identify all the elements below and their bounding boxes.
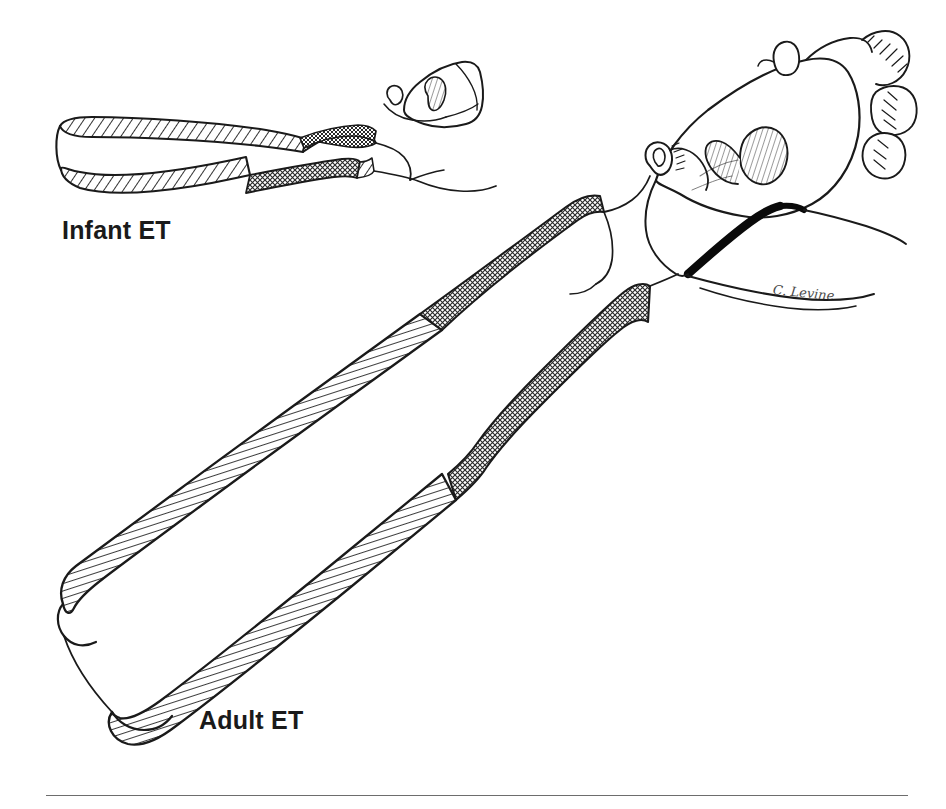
anatomical-line-drawing bbox=[0, 0, 946, 809]
adult-lumen-isthmus bbox=[64, 636, 112, 712]
adult-tube-inferior-bridge bbox=[650, 274, 678, 286]
adult-upper-wall-bony bbox=[61, 314, 442, 613]
levator-muscle-band bbox=[688, 206, 780, 274]
adult-upper-wall-tympanic-end bbox=[58, 604, 96, 645]
adenoid-mass-superior bbox=[862, 31, 909, 85]
infant-eustachian-tube bbox=[56, 117, 496, 193]
adenoid-mass-inferior bbox=[863, 133, 906, 178]
adult-lower-wall-cartilage bbox=[448, 284, 650, 500]
infant-lower-wall-bony bbox=[61, 157, 250, 193]
soft-palate-contour bbox=[804, 210, 906, 244]
nasopharynx-region bbox=[645, 31, 916, 310]
adult-tube-to-ostium-bridge bbox=[604, 176, 650, 212]
infant-eustachian-opening bbox=[387, 86, 403, 105]
figure-canvas: Infant ET Adult ET C. Levine bbox=[0, 0, 946, 809]
infant-upper-wall-bony bbox=[60, 117, 306, 152]
torus-tubarius bbox=[740, 127, 788, 184]
adenoid-mass-superior-hatch bbox=[868, 36, 907, 72]
bone-process-small bbox=[758, 60, 774, 66]
adult-lumen-lower-contour bbox=[570, 284, 596, 294]
skull-superior-contour bbox=[806, 38, 872, 60]
adult-eustachian-tube bbox=[58, 195, 650, 744]
infant-et-label: Infant ET bbox=[62, 216, 171, 245]
adult-lumen-upper-contour bbox=[596, 212, 613, 284]
bottom-divider-rule bbox=[46, 795, 908, 796]
adult-et-label: Adult ET bbox=[199, 706, 303, 735]
infant-soft-palate-line bbox=[410, 170, 444, 180]
infant-nasopharynx-floor bbox=[374, 171, 496, 191]
adult-upper-wall-cartilage bbox=[420, 195, 604, 330]
bone-fragment-pterygoid bbox=[773, 42, 799, 76]
infant-lower-wall-cartilage bbox=[246, 159, 360, 193]
infant-nasopharynx-sketch bbox=[384, 62, 483, 127]
infant-tympanic-end bbox=[56, 126, 61, 170]
